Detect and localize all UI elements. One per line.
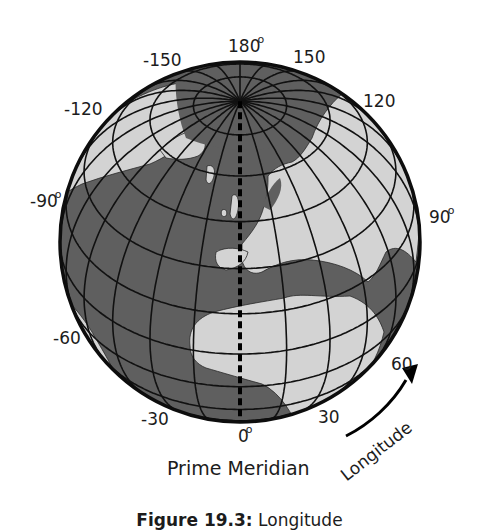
degree-symbol: o [55, 188, 62, 201]
caption-text: Longitude [258, 510, 343, 530]
land-ireland [221, 209, 227, 216]
longitude-label: -60 [53, 330, 81, 347]
longitude-label: 90o [429, 209, 457, 226]
longitude-label: 30 [318, 409, 340, 426]
degree-symbol: o [257, 33, 264, 46]
prime-meridian-label: Prime Meridian [167, 457, 310, 479]
degree-symbol: o [448, 204, 455, 217]
longitude-label: -90o [30, 193, 65, 210]
longitude-label: -150 [143, 52, 182, 69]
caption-number: Figure 19.3: [136, 510, 252, 530]
longitude-label: 120 [363, 93, 395, 110]
longitude-label: -120 [64, 101, 103, 118]
longitude-label: 180o [228, 38, 267, 55]
longitude-label: -30 [141, 411, 169, 428]
longitude-label: 60 [391, 356, 413, 373]
longitude-label: 150 [293, 49, 325, 66]
degree-symbol: o [246, 423, 253, 436]
longitude-label: 0o [238, 428, 256, 445]
figure-caption: Figure 19.3: Longitude [0, 510, 479, 530]
